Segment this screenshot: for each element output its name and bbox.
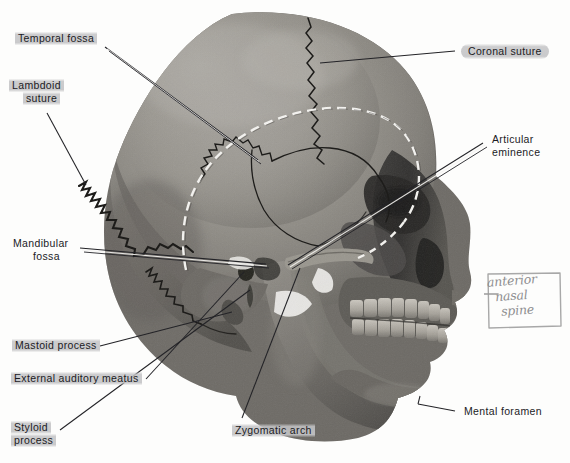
label-mandibular-fossa-line2: fossa (33, 250, 60, 263)
label-temporal-fossa: Temporal fossa (15, 32, 97, 45)
handwritten-text: anterior nasal spine (487, 269, 566, 319)
leader-mental-foramen (418, 404, 455, 411)
label-zygomatic-arch-text: Zygomatic arch (232, 424, 315, 437)
label-lambdoid-suture: Lambdoid suture (9, 79, 64, 105)
label-styloid-process-line1: Styloid (11, 421, 51, 434)
label-styloid-process: Styloid process (11, 421, 56, 447)
skull-anatomy-figure: Temporal fossa Lambdoid suture Mandibula… (0, 0, 570, 463)
label-mastoid-process-text: Mastoid process (12, 339, 100, 352)
skull-illustration (0, 0, 570, 463)
label-lambdoid-suture-line1: Lambdoid (9, 79, 64, 92)
leader-lambdoid-suture (47, 113, 86, 185)
label-mandibular-fossa-line1: Mandibular (13, 237, 68, 250)
label-lambdoid-suture-line2: suture (23, 92, 60, 105)
label-articular-eminence-line2: eminence (492, 146, 540, 159)
handwritten-annotation: anterior nasal spine (484, 271, 563, 331)
label-coronal-suture: Coronal suture (461, 44, 549, 59)
label-external-auditory-meatus-text: External auditory meatus (11, 372, 142, 385)
label-articular-eminence: Articular eminence (492, 133, 540, 159)
label-external-auditory-meatus: External auditory meatus (11, 372, 142, 385)
label-mental-foramen: Mental foramen (464, 405, 542, 418)
label-coronal-suture-text: Coronal suture (461, 44, 549, 59)
label-articular-eminence-line1: Articular (492, 133, 534, 146)
label-mastoid-process: Mastoid process (12, 339, 100, 352)
label-temporal-fossa-text: Temporal fossa (15, 32, 97, 45)
label-mental-foramen-text: Mental foramen (464, 405, 542, 418)
label-zygomatic-arch: Zygomatic arch (232, 424, 315, 437)
label-mandibular-fossa: Mandibular fossa (13, 237, 68, 263)
label-styloid-process-line2: process (11, 434, 56, 447)
